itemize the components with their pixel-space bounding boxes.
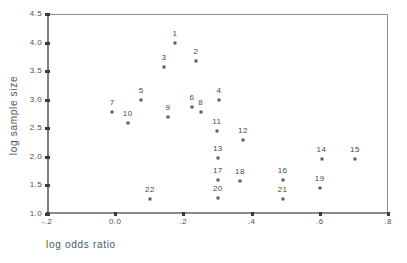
y-axis-tick-label: 4.5 [14, 10, 42, 18]
data-point [167, 115, 170, 118]
data-point [140, 99, 143, 102]
y-axis-tick [45, 127, 50, 130]
data-point [162, 65, 165, 68]
y-axis-tick [45, 99, 50, 102]
data-point-label: 11 [212, 118, 221, 126]
data-point [281, 178, 284, 181]
x-axis-tick [387, 212, 390, 216]
x-axis-title: log odds ratio [46, 239, 116, 250]
data-point-label: 19 [315, 175, 325, 183]
y-axis-tick-label: 1.5 [14, 181, 42, 189]
data-point-label: 1 [172, 30, 177, 38]
data-point [239, 179, 242, 182]
data-point-label: 17 [213, 167, 223, 175]
data-point [216, 197, 219, 200]
data-point-label: 9 [166, 104, 171, 112]
data-point [217, 99, 220, 102]
data-point [195, 59, 198, 62]
data-point-label: 22 [145, 186, 155, 194]
data-point [242, 138, 245, 141]
x-axis-tick-label: .4 [248, 217, 255, 226]
data-point-label: 20 [213, 185, 223, 193]
data-point [216, 157, 219, 160]
data-point-label: 4 [216, 87, 221, 95]
data-point [215, 130, 218, 133]
data-point [173, 42, 176, 45]
data-point-label: 6 [189, 94, 194, 102]
data-point [199, 111, 202, 114]
data-point [281, 197, 284, 200]
scatter-chart: 1.01.52.02.53.03.54.04.5 -.20.0.2.4.6.8 … [0, 0, 407, 263]
y-axis-title: log sample size [8, 61, 19, 171]
data-point-label: 16 [278, 167, 288, 175]
data-point-label: 18 [235, 168, 245, 176]
data-point [148, 197, 151, 200]
data-point [353, 157, 356, 160]
data-point-label: 13 [213, 145, 223, 153]
x-axis-tick [182, 212, 185, 216]
x-axis-tick [46, 212, 49, 216]
data-point [320, 157, 323, 160]
data-point-label: 12 [238, 127, 248, 135]
data-point-label: 10 [123, 110, 133, 118]
x-axis-tick [251, 212, 254, 216]
y-axis-tick [45, 184, 50, 187]
data-point-label: 14 [317, 146, 327, 154]
data-point-label: 15 [350, 146, 360, 154]
x-axis-tick [319, 212, 322, 216]
x-axis-tick-label: .8 [384, 217, 391, 226]
data-point [111, 111, 114, 114]
y-axis-tick-label: 4.0 [14, 39, 42, 47]
data-point [318, 187, 321, 190]
y-axis-tick [45, 156, 50, 159]
y-axis-tick [45, 13, 50, 16]
data-point-label: 7 [110, 99, 115, 107]
data-point-label: 21 [278, 186, 288, 194]
x-axis-tick [114, 212, 117, 216]
x-axis-tick-label: .2 [180, 217, 187, 226]
data-point [216, 178, 219, 181]
x-axis-tick-label: .6 [316, 217, 323, 226]
y-axis-tick-label: 1.0 [14, 210, 42, 218]
data-point-label: 2 [194, 48, 199, 56]
data-point-label: 8 [198, 99, 203, 107]
y-axis-tick [45, 42, 50, 45]
data-point [126, 122, 129, 125]
x-axis-tick-label: -.2 [42, 217, 53, 226]
data-point-label: 3 [161, 54, 166, 62]
data-point-label: 5 [139, 87, 144, 95]
y-axis-tick [45, 70, 50, 73]
x-axis-tick-label: 0.0 [109, 217, 121, 226]
data-point [190, 105, 193, 108]
